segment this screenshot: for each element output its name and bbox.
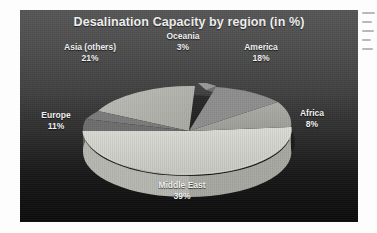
label-europe-value: 11%	[26, 121, 86, 132]
label-oceania-name: Oceania	[166, 31, 199, 41]
label-middle-east-value: 39%	[132, 191, 232, 202]
label-america: America 18%	[226, 42, 296, 64]
label-middle-east-name: Middle East	[158, 180, 205, 190]
label-america-value: 18%	[226, 53, 296, 64]
label-asia-others-name: Asia (others)	[64, 42, 116, 52]
label-europe-name: Europe	[41, 110, 70, 120]
label-africa-name: Africa	[300, 108, 324, 118]
text-line	[362, 39, 371, 41]
label-middle-east: Middle East 39%	[132, 180, 232, 202]
label-asia-others-value: 21%	[44, 53, 136, 64]
text-line	[362, 48, 373, 50]
label-oceania: Oceania 3%	[148, 31, 218, 53]
text-line	[362, 21, 372, 23]
label-asia-others: Asia (others) 21%	[44, 42, 136, 64]
label-africa: Africa 8%	[282, 108, 342, 130]
label-america-name: America	[244, 42, 278, 52]
text-line	[362, 12, 375, 14]
label-oceania-value: 3%	[148, 42, 218, 53]
label-africa-value: 8%	[282, 119, 342, 130]
label-europe: Europe 11%	[26, 110, 86, 132]
text-line	[362, 30, 374, 32]
cut-off-page-text	[362, 12, 377, 50]
page-canvas: Desalination Capacity by region (in %)	[0, 0, 377, 233]
chart-panel: Desalination Capacity by region (in %)	[20, 10, 358, 222]
